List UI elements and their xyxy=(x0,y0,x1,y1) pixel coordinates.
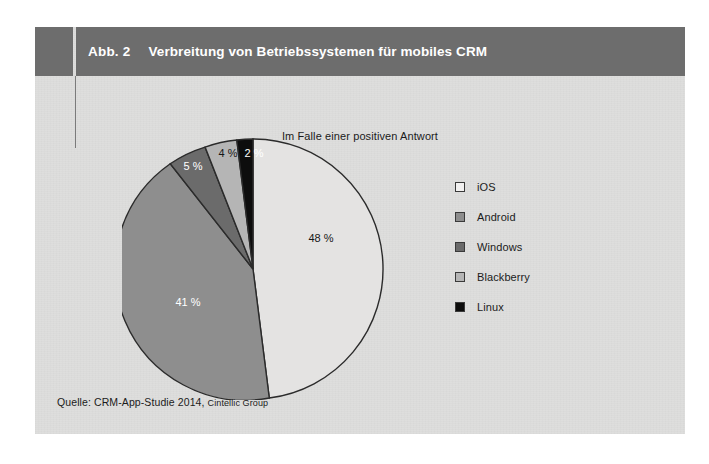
legend-label-linux: Linux xyxy=(477,301,504,313)
legend-item-linux[interactable]: Linux xyxy=(455,292,625,322)
pie-chart-svg: 48 % 41 % 5 % 4 % 2 % xyxy=(122,138,384,400)
source-text: Quelle: CRM-App-Studie 2014, xyxy=(57,396,205,408)
header-vertical-rule xyxy=(75,76,76,148)
figure-title: Verbreitung von Betriebssystemen für mob… xyxy=(148,44,487,59)
legend-item-blackberry[interactable]: Blackberry xyxy=(455,262,625,292)
legend-swatch-blackberry xyxy=(455,272,465,282)
pie-label-blackberry: 4 % xyxy=(219,147,238,159)
pie-label-linux: 2 % xyxy=(245,147,264,159)
legend-item-android[interactable]: Android xyxy=(455,202,625,232)
legend-swatch-ios xyxy=(455,182,465,192)
figure-body: Im Falle einer positiven Antwort 48 % 41… xyxy=(35,27,685,434)
legend-swatch-windows xyxy=(455,242,465,252)
legend-item-ios[interactable]: iOS xyxy=(455,172,625,202)
source-organization: Cintellic Group xyxy=(208,398,269,408)
legend-label-android: Android xyxy=(477,211,516,223)
legend-label-ios: iOS xyxy=(477,181,496,193)
figure-header-bar: Abb. 2 Verbreitung von Betriebssystemen … xyxy=(76,27,685,76)
source-note: Quelle: CRM-App-Studie 2014, Cintellic G… xyxy=(57,396,268,408)
pie-label-android: 41 % xyxy=(175,296,200,308)
legend-label-windows: Windows xyxy=(477,241,522,253)
legend-swatch-linux xyxy=(455,302,465,312)
pie-slice-ios[interactable] xyxy=(253,139,383,398)
pie-chart: 48 % 41 % 5 % 4 % 2 % xyxy=(122,138,384,400)
chart-legend: iOS Android Windows Blackberry Linux xyxy=(455,172,625,322)
pie-label-windows: 5 % xyxy=(184,160,203,172)
legend-label-blackberry: Blackberry xyxy=(477,271,530,283)
pie-label-ios: 48 % xyxy=(308,232,333,244)
figure-number: Abb. 2 xyxy=(88,44,130,59)
header-content: Abb. 2 Verbreitung von Betriebssystemen … xyxy=(88,27,487,76)
figure-container: Im Falle einer positiven Antwort 48 % 41… xyxy=(0,0,709,464)
legend-item-windows[interactable]: Windows xyxy=(455,232,625,262)
header-left-tab xyxy=(35,27,73,76)
legend-swatch-android xyxy=(455,212,465,222)
